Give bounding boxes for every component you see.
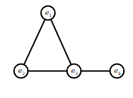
node-e3: e3 — [67, 64, 81, 78]
nodes-group: e1e2e3e4 — [14, 6, 124, 78]
node-e4: e4 — [110, 64, 124, 78]
node-subscript: 1 — [49, 13, 52, 18]
node-subscript: 2 — [22, 71, 25, 76]
edges-group — [21, 13, 117, 71]
node-subscript: 4 — [118, 71, 121, 76]
node-e1: e1 — [41, 6, 55, 20]
edge-e1-e2 — [21, 13, 48, 71]
graph-diagram: e1e2e3e4 — [0, 0, 133, 98]
node-e2: e2 — [14, 64, 28, 78]
node-subscript: 3 — [75, 71, 78, 76]
edge-e1-e3 — [48, 13, 74, 71]
